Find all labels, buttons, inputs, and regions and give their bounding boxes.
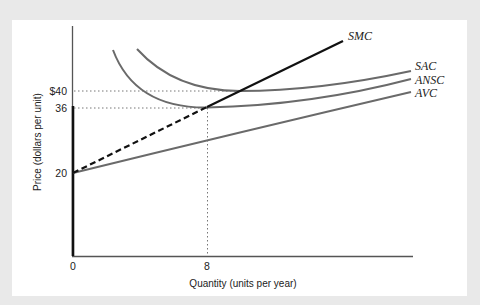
sac-curve bbox=[137, 49, 411, 91]
sac-label: SAC bbox=[415, 59, 437, 73]
x-axis-label: Quantity (units per year) bbox=[189, 278, 296, 289]
ytick-20: 20 bbox=[55, 167, 67, 179]
ytick-40: $40 bbox=[49, 85, 67, 97]
ansc-label: ANSC bbox=[414, 73, 445, 87]
smc-label: SMC bbox=[348, 29, 373, 43]
xtick-0: 0 bbox=[70, 260, 76, 272]
ytick-36: 36 bbox=[55, 102, 67, 114]
smc-dashed bbox=[73, 107, 207, 173]
y-axis-label: Price (dollars per unit) bbox=[32, 93, 43, 191]
xtick-8: 8 bbox=[204, 260, 210, 272]
avc-label: AVC bbox=[414, 86, 438, 100]
chart-svg: $40 36 20 0 8 Quantity (units per year) … bbox=[0, 0, 480, 305]
avc-curve bbox=[73, 92, 411, 173]
